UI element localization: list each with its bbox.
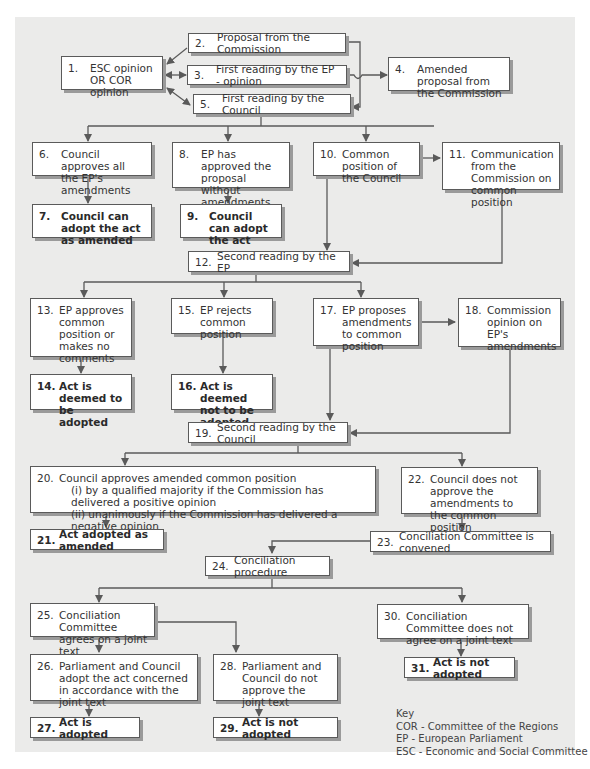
node-5-first-reading-council: 5. First reading by the Council (193, 94, 351, 114)
node-11: 11. Communication from the Commission on… (442, 142, 560, 190)
node-number: 19. (195, 427, 217, 439)
node-number: 13. (37, 304, 59, 351)
node-18: 18. Commission opinion on EP's amendment… (458, 298, 561, 347)
key-title: Key (396, 708, 588, 721)
node-text: Act is deemed to be adopted (59, 380, 125, 404)
node-number: 15. (178, 304, 200, 328)
node-25: 25. Conciliation Committee agrees on a j… (30, 603, 155, 637)
node-text: Conciliation Committee is convened (399, 530, 544, 554)
node-text: Conciliation Committee agrees on a joint… (59, 609, 148, 631)
node-text: Proposal from the Commission (217, 31, 339, 55)
node-number: 7. (39, 210, 61, 232)
node-text: Second reading by the EP (217, 250, 343, 274)
node-21: 21. Act adopted as amended (30, 529, 164, 550)
node-number: 9. (187, 210, 209, 232)
node-28: 28. Parliament and Council do not approv… (213, 654, 338, 701)
node-number: 8. (179, 148, 201, 182)
node-text: Council approves amended common position… (59, 472, 369, 507)
node-number: 24. (212, 560, 234, 572)
node-10: 10. Common position of the Council (313, 142, 420, 176)
node-2-proposal: 2. Proposal from the Commission (188, 33, 346, 53)
node-number: 2. (195, 37, 217, 49)
node-text: Second reading by the Council (217, 421, 341, 445)
node-number: 21. (37, 534, 59, 546)
node-20-subitem-1: (i) by a qualified majority if the Commi… (59, 484, 369, 508)
node-text: Common position of the Council (342, 148, 413, 170)
node-number: 29. (220, 722, 242, 734)
node-20-main-text: Council approves amended common position (59, 472, 296, 484)
node-8: 8. EP has approved the proposal without … (172, 142, 290, 188)
key-entry-cor: COR - Committee of the Regions (396, 721, 588, 734)
node-text: EP proposes amendments to common positio… (342, 304, 412, 340)
node-30: 30. Conciliation Committee does not agre… (377, 604, 529, 639)
node-number: 12. (195, 256, 217, 268)
node-text: Council approves all the EP's amendments (61, 148, 145, 170)
node-17: 17. EP proposes amendments to common pos… (313, 298, 419, 346)
node-text: ESC opinion OR COR opinion (90, 62, 156, 84)
node-number: 14. (37, 380, 59, 404)
node-number: 18. (465, 304, 487, 341)
node-number: 25. (37, 609, 59, 631)
node-text: Conciliation procedure (234, 554, 323, 578)
node-number: 17. (320, 304, 342, 340)
node-16: 16. Act is deemed not to be adopted (171, 374, 273, 410)
node-number: 11. (449, 148, 471, 184)
node-number: 5. (200, 98, 222, 110)
node-number: 31. (411, 662, 433, 674)
node-27: 27. Act is adopted (30, 717, 140, 738)
node-7: 7. Council can adopt the act as amended (32, 204, 152, 238)
node-number: 3. (194, 69, 216, 81)
node-number: 30. (384, 610, 406, 633)
node-text: Act adopted as amended (59, 528, 157, 552)
node-text: Act is deemed not to be adopted (200, 380, 266, 404)
node-text: EP rejects common position (200, 304, 266, 328)
node-6: 6. Council approves all the EP's amendme… (32, 142, 152, 176)
node-text: Act is not adopted (433, 656, 508, 680)
node-1-esc-cor-opinion: 1. ESC opinion OR COR opinion (61, 56, 163, 90)
node-number: 1. (68, 62, 90, 84)
node-number: 4. (395, 63, 417, 85)
node-text: EP has approved the proposal without ame… (201, 148, 283, 182)
node-text: Amended proposal from the Commission (417, 63, 503, 85)
node-number: 20. (37, 472, 59, 507)
node-23: 23. Conciliation Committee is convened (370, 531, 551, 552)
node-number: 6. (39, 148, 61, 170)
node-text: Parliament and Council do not approve th… (242, 660, 331, 695)
node-19: 19. Second reading by the Council (188, 422, 348, 443)
node-text: First reading by the Council (222, 92, 344, 116)
node-15: 15. EP rejects common position (171, 298, 273, 334)
node-13: 13. EP approves common position or makes… (30, 298, 132, 357)
node-22: 22. Council does not approve the amendme… (401, 467, 538, 514)
node-number: 28. (220, 660, 242, 695)
node-number: 23. (377, 536, 399, 548)
key-entry-esc: ESC - Economic and Social Committee (396, 746, 588, 759)
node-number: 26. (37, 660, 59, 695)
node-text: Act is not adopted (242, 716, 331, 740)
node-4-amended-proposal: 4. Amended proposal from the Commission (388, 57, 510, 91)
node-text: Commission opinion on EP's amendments (487, 304, 556, 341)
node-number: 22. (408, 473, 430, 508)
node-text: Conciliation Committee does not agree on… (406, 610, 522, 633)
node-text: Council can adopt the act as amended (61, 210, 145, 232)
node-number: 16. (178, 380, 200, 404)
node-text: Council does not approve the amendments … (430, 473, 531, 508)
node-31: 31. Act is not adopted (404, 657, 515, 678)
node-29: 29. Act is not adopted (213, 717, 338, 738)
node-20: 20. Council approves amended common posi… (30, 466, 376, 513)
node-text: Parliament and Council adopt the act con… (59, 660, 191, 695)
node-text: Communication from the Commission on com… (471, 148, 554, 184)
node-number: 27. (37, 722, 59, 734)
node-text: Act is adopted (59, 716, 133, 740)
node-text: Council can adopt the act (209, 210, 275, 232)
node-24: 24. Conciliation procedure (205, 556, 330, 576)
node-3-first-reading-ep: 3. First reading by the EP - opinion (187, 65, 347, 85)
node-text: First reading by the EP - opinion (216, 63, 340, 87)
node-9: 9. Council can adopt the act (180, 204, 282, 238)
node-number: 10. (320, 148, 342, 170)
node-text: EP approves common position or makes no … (59, 304, 125, 351)
key-entry-ep: EP - European Parliament (396, 733, 588, 746)
node-14: 14. Act is deemed to be adopted (30, 374, 132, 410)
node-26: 26. Parliament and Council adopt the act… (30, 654, 198, 701)
legend-key: Key COR - Committee of the Regions EP - … (396, 708, 588, 758)
node-12: 12. Second reading by the EP (188, 251, 350, 272)
